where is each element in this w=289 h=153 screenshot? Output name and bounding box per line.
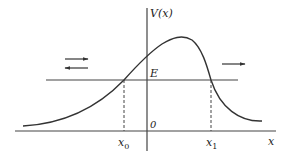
potential-barrier-diagram: V(x) E 0 x x0 x1 bbox=[0, 0, 289, 153]
y-axis-label: V(x) bbox=[150, 7, 173, 20]
energy-label: E bbox=[149, 67, 158, 80]
x-axis-label: x bbox=[268, 135, 275, 148]
origin-label: 0 bbox=[150, 119, 157, 130]
x0-label: x0 bbox=[118, 136, 129, 151]
potential-curve bbox=[23, 37, 262, 126]
x1-label: x1 bbox=[206, 136, 217, 151]
